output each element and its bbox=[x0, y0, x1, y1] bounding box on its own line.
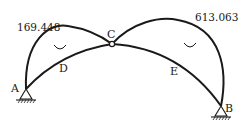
sign-arc-right-icon bbox=[184, 43, 196, 47]
label-e: E bbox=[170, 65, 178, 78]
sign-arc-left-icon bbox=[54, 45, 66, 49]
label-b: B bbox=[225, 102, 233, 115]
value-left-peak: 169.448 bbox=[17, 21, 60, 33]
label-d: D bbox=[59, 62, 68, 75]
value-right-peak: 613.063 bbox=[195, 11, 238, 23]
label-a: A bbox=[10, 82, 20, 95]
moment-curve-right bbox=[112, 19, 223, 106]
label-c: C bbox=[107, 28, 115, 41]
pin-support-a-icon bbox=[16, 89, 36, 103]
hinge-c-icon bbox=[109, 41, 114, 46]
arch-moment-diagram: 169.448 613.063 A B C D E bbox=[0, 0, 245, 131]
arch-axis-right bbox=[112, 44, 221, 106]
arch-axis-left bbox=[26, 44, 112, 89]
